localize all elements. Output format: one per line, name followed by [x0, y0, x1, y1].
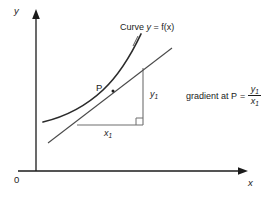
gradient-triangle [77, 68, 143, 125]
y-axis [32, 9, 40, 171]
gradient-expression: gradient at P = y1 x1 [186, 85, 261, 107]
run-label-base: x [104, 128, 109, 138]
x-axis [18, 167, 248, 175]
y-axis-arrowhead-icon [32, 9, 40, 19]
gradient-fraction-denominator: x1 [250, 97, 260, 106]
point-p-label: P [96, 83, 102, 93]
gradient-diagram-figure: y x 0 Curve y = f(x) P y1 x1 gradient at… [0, 0, 270, 198]
curve-label-function: f(x) [161, 22, 174, 32]
x-axis-label: x [248, 178, 253, 188]
right-angle-marker-icon [136, 118, 143, 125]
rise-label-y1: y1 [150, 90, 158, 99]
gradient-denominator-subscript: 1 [255, 100, 259, 107]
curve-label-equals: = [154, 22, 159, 32]
curve-label-word: Curve [120, 22, 144, 32]
rise-label-base: y [150, 89, 155, 99]
y-axis-label: y [14, 6, 19, 16]
gradient-expression-equals: = [240, 91, 245, 101]
gradient-fraction-numerator: y1 [250, 85, 260, 94]
origin-label: 0 [14, 175, 19, 185]
run-label-subscript: 1 [109, 132, 113, 139]
gradient-fraction: y1 x1 [248, 85, 261, 107]
gradient-numerator-subscript: 1 [255, 88, 259, 95]
curve-label: Curve y = f(x) [120, 23, 174, 32]
x-axis-arrowhead-icon [238, 167, 248, 175]
rise-label-subscript: 1 [155, 93, 159, 100]
run-label-x1: x1 [104, 129, 112, 138]
curve-label-variable: y [147, 22, 152, 32]
gradient-expression-text: gradient at P [186, 91, 237, 101]
point-p-marker [112, 90, 115, 93]
